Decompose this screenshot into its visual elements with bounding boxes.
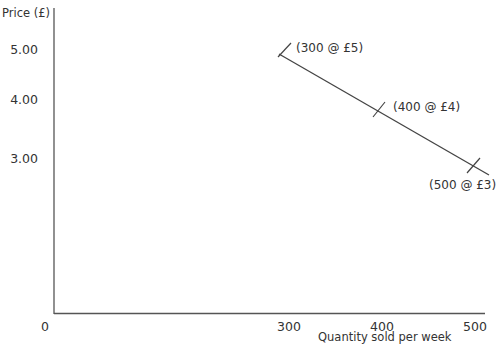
y-tick-4: 4.00 (0, 92, 38, 107)
x-tick-500: 500 (463, 319, 487, 334)
annotation-300: (300 @ £5) (296, 41, 363, 55)
x-axis-title: Quantity sold per week (318, 330, 452, 344)
annotation-500: (500 @ £3) (429, 178, 496, 192)
y-axis-title: Price (£) (2, 6, 50, 20)
tick-mark-500 (467, 158, 480, 173)
y-tick-5: 5.00 (0, 42, 38, 57)
annotation-400: (400 @ £4) (393, 100, 460, 114)
x-tick-300: 300 (277, 319, 301, 334)
demand-line (279, 54, 489, 175)
y-tick-3: 3.00 (0, 151, 38, 166)
tick-mark-300 (278, 43, 291, 57)
x-tick-0: 0 (41, 319, 49, 334)
